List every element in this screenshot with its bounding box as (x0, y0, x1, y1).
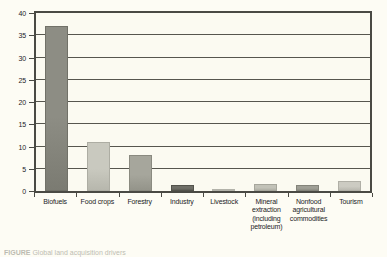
x-axis-label: Food crops (76, 198, 118, 232)
y-tick-label: 0 (22, 188, 26, 195)
x-axis-label: Tourism (330, 198, 372, 232)
x-axis-label: Forestry (119, 198, 161, 232)
x-axis-label: Nonfoodagriculturalcommodities (288, 198, 330, 232)
y-tick-label: 5 (22, 165, 26, 172)
x-tick-mark (372, 193, 373, 197)
bar[interactable] (129, 155, 152, 191)
y-tick-label: 35 (18, 32, 26, 39)
x-tick-mark (76, 193, 77, 197)
x-axis-label-line: Biofuels (43, 198, 67, 205)
x-axis-label-line: Industry (170, 198, 194, 205)
x-axis-label: Biofuels (34, 198, 76, 232)
x-tick-mark (119, 193, 120, 197)
y-tick-label: 10 (18, 143, 26, 150)
x-tick-mark (34, 193, 35, 197)
caption-figure-label: FIGURE (4, 249, 30, 256)
y-tick-label: 15 (18, 121, 26, 128)
x-tick-mark (245, 193, 246, 197)
bar-slot (78, 13, 120, 191)
bar[interactable] (296, 185, 319, 191)
x-axis-label-line: petroleum) (250, 223, 282, 230)
bar-slot (287, 13, 329, 191)
y-tick-label: 30 (18, 54, 26, 61)
bar-slot (36, 13, 78, 191)
x-axis-label: Industry (161, 198, 203, 232)
bar[interactable] (87, 142, 110, 191)
bar[interactable] (338, 181, 361, 191)
figure-caption: FIGURE Global land acquisition drivers (4, 249, 384, 257)
x-axis-label-line: Nonfood (296, 198, 321, 205)
y-tick-label: 20 (18, 99, 26, 106)
y-tick-label: 25 (18, 76, 26, 83)
x-axis-label: Livestock (203, 198, 245, 232)
x-axis-label-line: Livestock (210, 198, 238, 205)
x-axis-label-line: agricultural (292, 206, 324, 213)
x-tick-mark (161, 193, 162, 197)
bar-slot (120, 13, 162, 191)
x-axis-label-line: commodities (290, 215, 328, 222)
x-axis-labels: BiofuelsFood cropsForestryIndustryLivest… (34, 198, 372, 232)
bar-slot (203, 13, 245, 191)
bar[interactable] (254, 184, 277, 191)
caption-text: Global land acquisition drivers (32, 249, 125, 256)
x-axis-label-line: (including (252, 215, 280, 222)
x-axis-label-line: Mineral (255, 198, 277, 205)
bar-slot (161, 13, 203, 191)
x-axis-label-line: Forestry (127, 198, 151, 205)
x-tick-mark (330, 193, 331, 197)
bar[interactable] (45, 26, 68, 191)
bar-slot (328, 13, 370, 191)
x-axis-label-line: Food crops (81, 198, 115, 205)
bar[interactable] (171, 185, 194, 191)
y-axis: 0510152025303540 (0, 11, 34, 193)
bar-series (36, 13, 370, 191)
y-tick-label: 40 (18, 10, 26, 17)
bar[interactable] (212, 189, 235, 191)
bar-slot (245, 13, 287, 191)
x-axis-label-line: extraction (252, 206, 281, 213)
plot-area (36, 13, 370, 191)
x-axis-ticks (34, 193, 372, 197)
x-tick-mark (288, 193, 289, 197)
x-tick-mark (203, 193, 204, 197)
x-axis-label: Mineralextraction(includingpetroleum) (245, 198, 287, 232)
x-axis-label-line: Tourism (339, 198, 362, 205)
plot-frame (34, 11, 372, 193)
